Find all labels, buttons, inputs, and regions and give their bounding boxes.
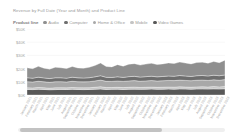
area-band-video-games — [27, 89, 225, 95]
legend-label-video-games: Video Games — [158, 20, 183, 25]
legend-label-mobile: Mobile — [135, 20, 147, 25]
legend-item-home-office[interactable]: Home & Office — [93, 20, 125, 25]
y-axis-tick-label: $40K — [16, 40, 25, 45]
plot-area[interactable] — [27, 29, 225, 95]
legend-label-computer: Computer — [69, 20, 87, 25]
plot-wrapper: $50K$40K$30K$20K$10K$0K January 2021Febr… — [9, 29, 225, 104]
y-axis-tick-label: $30K — [16, 53, 25, 58]
chart-title: Revenue by Full Date (Year and Month) an… — [13, 8, 125, 13]
y-axis-tick-label: $50K — [16, 27, 25, 32]
horizontal-scrollbar-track[interactable] — [18, 128, 225, 132]
legend-item-mobile[interactable]: Mobile — [130, 20, 147, 25]
chart-legend: Product line Audio Computer Home & Offic… — [13, 20, 186, 25]
legend-item-computer[interactable]: Computer — [64, 20, 87, 25]
y-axis-tick-label: $10K — [16, 79, 25, 84]
revenue-area-chart-card: Revenue by Full Date (Year and Month) an… — [0, 0, 232, 138]
legend-swatch-mobile — [130, 21, 133, 24]
y-axis-tick-label: $20K — [16, 66, 25, 71]
area-chart-svg — [27, 29, 225, 95]
area-band-audio — [27, 60, 225, 78]
legend-swatch-computer — [64, 21, 67, 24]
legend-item-audio[interactable]: Audio — [43, 20, 59, 25]
y-axis-tick-label: $0K — [18, 93, 25, 98]
y-axis: $50K$40K$30K$20K$10K$0K — [9, 29, 26, 95]
legend-swatch-audio — [43, 21, 46, 24]
legend-item-video-games[interactable]: Video Games — [153, 20, 183, 25]
legend-caption: Product line — [13, 20, 38, 25]
legend-label-audio: Audio — [48, 20, 59, 25]
horizontal-scrollbar-thumb[interactable] — [20, 128, 162, 132]
legend-swatch-video-games — [153, 21, 156, 24]
legend-label-home-office: Home & Office — [98, 20, 125, 25]
legend-swatch-home-office — [93, 21, 96, 24]
x-axis: January 2021February 2021March 2021April… — [27, 96, 225, 132]
